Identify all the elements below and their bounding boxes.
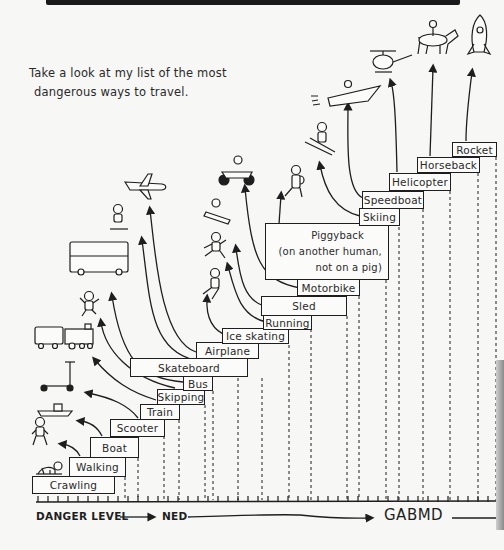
airplane-icon xyxy=(125,174,166,199)
piggyback-icon xyxy=(285,166,304,198)
axis-low-label: NED xyxy=(162,510,188,522)
step-label: Train xyxy=(147,406,173,418)
step-skateboard: Skateboard xyxy=(130,358,248,377)
horse-rider-icon xyxy=(418,21,458,55)
step-boat: Boat xyxy=(90,437,139,458)
step-label: Boat xyxy=(102,442,127,454)
skier-icon xyxy=(305,123,335,156)
step-label: Motorbike xyxy=(302,282,356,294)
step-label: Bus xyxy=(188,378,208,390)
walking-person-icon xyxy=(32,418,48,446)
step-airplane: Airplane xyxy=(196,342,259,359)
step-running: Running xyxy=(263,315,312,330)
train-icon xyxy=(35,324,93,349)
step-label: Piggyback xyxy=(311,228,382,244)
step-label: Scooter xyxy=(117,422,159,434)
ice-skater-icon xyxy=(203,269,220,300)
sled-icon xyxy=(204,199,230,224)
step-label: Crawling xyxy=(50,479,97,491)
step-label: Sled xyxy=(292,300,316,312)
step-skiing: Skiing xyxy=(359,208,400,226)
running-person-icon xyxy=(204,233,226,259)
speedboat-icon xyxy=(311,81,380,107)
step-crawling: Crawling xyxy=(32,476,115,494)
step-skipping: Skipping xyxy=(157,389,205,405)
step-label: Ice skating xyxy=(226,330,285,342)
step-label: Skiing xyxy=(363,211,396,223)
step-sled: Sled xyxy=(261,296,347,316)
step-label: Skateboard xyxy=(158,362,220,374)
skipping-person-icon xyxy=(80,292,99,317)
step-label: Running xyxy=(265,317,309,329)
rocket-icon xyxy=(468,15,490,54)
page-edge-shadow xyxy=(496,360,504,530)
motorbike-icon xyxy=(219,156,254,185)
step-label: Walking xyxy=(76,461,119,473)
step-label: Airplane xyxy=(205,345,250,357)
step-label-line3: not on a pig) xyxy=(316,260,382,276)
step-label: Skipping xyxy=(158,391,205,403)
step-motorbike: Motorbike xyxy=(297,279,360,296)
step-label: Helicopter xyxy=(392,176,448,188)
skateboarder-icon xyxy=(110,205,128,230)
step-piggyback: Piggyback (on another human, not on a pi… xyxy=(265,223,389,280)
axis-high-label: GABMD xyxy=(384,506,443,524)
axis-title: DANGER LEVEL xyxy=(36,510,129,522)
boat-icon xyxy=(38,404,72,416)
step-label-line2: (on another human, xyxy=(279,244,382,260)
step-train: Train xyxy=(140,404,180,420)
step-scooter: Scooter xyxy=(110,419,165,437)
step-bus: Bus xyxy=(183,376,213,391)
step-speedboat: Speedboat xyxy=(362,191,424,209)
helicopter-icon xyxy=(370,51,412,72)
step-helicopter: Helicopter xyxy=(389,173,451,191)
step-label: Speedboat xyxy=(364,194,422,206)
step-label: Horseback xyxy=(420,159,477,171)
step-ice-skating: Ice skating xyxy=(222,328,289,344)
double-decker-bus-icon xyxy=(70,242,128,275)
kick-scooter-icon xyxy=(41,362,75,391)
step-walking: Walking xyxy=(69,457,126,477)
step-label: Rocket xyxy=(456,144,493,156)
step-horseback: Horseback xyxy=(417,157,480,173)
crawling-baby-icon xyxy=(36,462,62,474)
step-rocket: Rocket xyxy=(452,142,497,157)
